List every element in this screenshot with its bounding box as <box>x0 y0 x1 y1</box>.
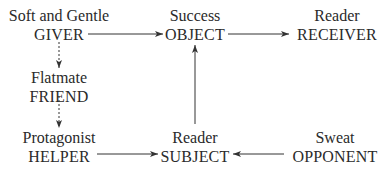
friend-label: Flatmate <box>19 68 99 87</box>
object-label: Success <box>155 6 235 25</box>
node-friend: Flatmate FRIEND <box>19 68 99 106</box>
receiver-label: Reader <box>288 6 386 25</box>
subject-label: Reader <box>155 128 235 147</box>
node-object: Success OBJECT <box>155 6 235 44</box>
giver-label: Soft and Gentle <box>0 6 118 25</box>
friend-role: FRIEND <box>19 87 99 106</box>
subject-role: SUBJECT <box>155 147 235 166</box>
node-subject: Reader SUBJECT <box>155 128 235 166</box>
opponent-role: OPPONENT <box>284 147 386 166</box>
object-role: OBJECT <box>155 25 235 44</box>
receiver-role: RECEIVER <box>288 25 386 44</box>
node-helper: Protagonist HELPER <box>14 128 104 166</box>
node-giver: Soft and Gentle GIVER <box>0 6 118 44</box>
helper-label: Protagonist <box>14 128 104 147</box>
helper-role: HELPER <box>14 147 104 166</box>
node-opponent: Sweat OPPONENT <box>284 128 386 166</box>
opponent-label: Sweat <box>284 128 386 147</box>
node-receiver: Reader RECEIVER <box>288 6 386 44</box>
giver-role: GIVER <box>0 25 118 44</box>
